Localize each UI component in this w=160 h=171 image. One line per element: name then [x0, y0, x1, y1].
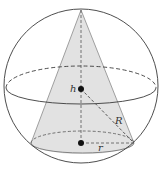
base-center-point — [78, 140, 84, 146]
sphere-center-point — [78, 86, 84, 92]
sphere-radius-label: R — [114, 115, 123, 126]
cone-surface — [31, 10, 134, 154]
height-label: h — [70, 83, 76, 94]
cone-in-sphere-diagram: h R r — [0, 0, 160, 171]
